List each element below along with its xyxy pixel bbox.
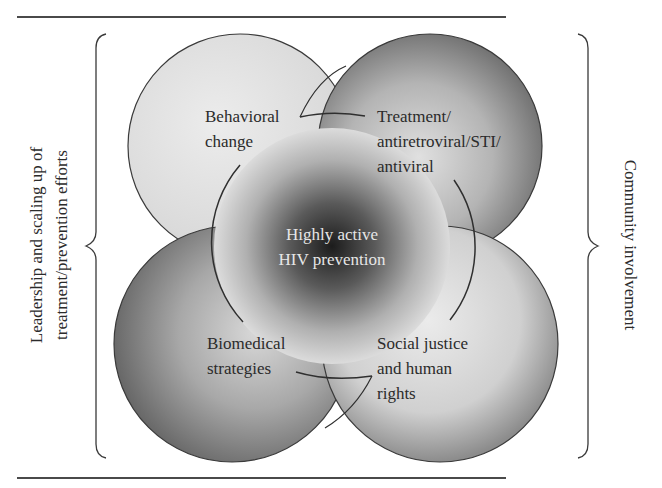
label-left-brace: Leadership and scaling up of treatment/p…: [24, 147, 74, 343]
label-center: Highly active HIV prevention: [258, 222, 406, 272]
label-social-justice: Social justice and human rights: [377, 331, 468, 406]
label-right-brace: Community involvement: [618, 160, 643, 330]
label-treatment: Treatment/ antiretroviral/STI/ antiviral: [377, 104, 501, 179]
left-brace: [86, 34, 106, 458]
label-biomedical: Biomedical strategies: [207, 331, 285, 381]
label-behavioral: Behavioral change: [205, 104, 280, 154]
right-brace: [578, 34, 598, 458]
